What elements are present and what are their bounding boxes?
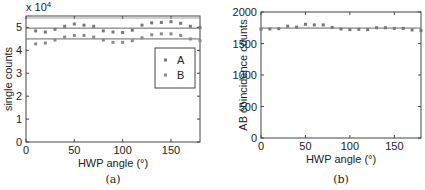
data-point bbox=[112, 41, 115, 44]
panel-caption: (b) bbox=[333, 173, 349, 186]
data-point bbox=[313, 23, 316, 26]
panel-caption: (a) bbox=[105, 173, 120, 186]
y-tick-label: 0 bbox=[16, 136, 22, 148]
data-point bbox=[34, 42, 37, 45]
x-tick-label: 50 bbox=[299, 140, 311, 152]
y-axis-label: single counts bbox=[2, 46, 14, 111]
data-point bbox=[141, 36, 144, 39]
data-point bbox=[73, 34, 76, 37]
data-point bbox=[160, 32, 163, 35]
data-point bbox=[366, 28, 369, 31]
data-point bbox=[63, 25, 66, 28]
data-point bbox=[121, 31, 124, 34]
data-point bbox=[102, 39, 105, 42]
data-point bbox=[189, 37, 192, 40]
chart-panel-a: 050100150012345x 104ABHWP angle (°)singl… bbox=[2, 0, 202, 186]
y-multiplier: x 104 bbox=[26, 0, 52, 13]
data-point bbox=[44, 31, 47, 34]
x-axis-label: HWP angle (°) bbox=[78, 157, 148, 169]
data-point bbox=[150, 33, 153, 36]
data-point bbox=[54, 39, 57, 42]
data-point bbox=[160, 21, 163, 24]
data-point bbox=[179, 22, 182, 25]
data-point bbox=[170, 20, 173, 23]
y-tick-label: 4 bbox=[16, 44, 22, 56]
plot-frame bbox=[261, 12, 421, 138]
data-point bbox=[131, 39, 134, 42]
data-point bbox=[260, 28, 263, 31]
data-point bbox=[322, 23, 325, 26]
x-tick-label: 100 bbox=[341, 140, 359, 152]
data-point bbox=[199, 26, 202, 29]
y-tick-label: 2000 bbox=[233, 6, 257, 18]
x-tick-label: 100 bbox=[113, 144, 131, 156]
data-point bbox=[348, 28, 351, 31]
data-point bbox=[170, 32, 173, 35]
data-point bbox=[411, 28, 414, 31]
data-point bbox=[384, 26, 387, 29]
legend-label: B bbox=[177, 69, 184, 81]
data-point bbox=[420, 29, 423, 32]
data-point bbox=[83, 34, 86, 37]
data-point bbox=[277, 27, 280, 30]
y-axis-label: AB coincidence counts bbox=[237, 19, 249, 131]
x-tick-label: 0 bbox=[23, 144, 29, 156]
y-tick-label: 5 bbox=[16, 21, 22, 33]
chart-panel-b: 0501001500500100015002000HWP angle (°)AB… bbox=[233, 6, 423, 186]
y-tick-label: 0 bbox=[251, 132, 257, 144]
data-point bbox=[331, 26, 334, 29]
data-point bbox=[92, 25, 95, 28]
y-tick-label: 3 bbox=[16, 67, 22, 79]
data-point bbox=[73, 23, 76, 26]
x-axis-label: HWP angle (°) bbox=[306, 153, 376, 165]
data-point bbox=[393, 27, 396, 30]
data-point bbox=[179, 34, 182, 37]
x-tick-label: 150 bbox=[385, 140, 403, 152]
figure: 050100150012345x 104ABHWP angle (°)singl… bbox=[0, 0, 425, 190]
legend: AB bbox=[155, 48, 195, 88]
data-point bbox=[402, 27, 405, 30]
data-point bbox=[189, 25, 192, 28]
data-point bbox=[150, 21, 153, 24]
x-tick-label: 150 bbox=[162, 144, 180, 156]
data-point bbox=[357, 28, 360, 31]
data-point bbox=[295, 26, 298, 29]
data-point bbox=[44, 42, 47, 45]
data-point bbox=[199, 39, 202, 42]
data-point bbox=[286, 25, 289, 28]
data-point bbox=[112, 31, 115, 34]
data-point bbox=[375, 26, 378, 29]
data-point bbox=[54, 28, 57, 31]
data-point bbox=[340, 28, 343, 31]
data-point bbox=[304, 23, 307, 26]
data-point bbox=[131, 29, 134, 32]
data-point bbox=[34, 29, 37, 32]
data-point bbox=[102, 29, 105, 32]
data-point bbox=[92, 36, 95, 39]
data-point bbox=[141, 24, 144, 27]
x-tick-label: 50 bbox=[68, 144, 80, 156]
data-point bbox=[83, 24, 86, 27]
legend-label: A bbox=[177, 54, 185, 66]
data-point bbox=[121, 41, 124, 44]
y-tick-label: 2 bbox=[16, 90, 22, 102]
x-tick-label: 0 bbox=[258, 140, 264, 152]
data-point bbox=[63, 36, 66, 39]
y-tick-label: 1 bbox=[16, 113, 22, 125]
data-point bbox=[268, 28, 271, 31]
